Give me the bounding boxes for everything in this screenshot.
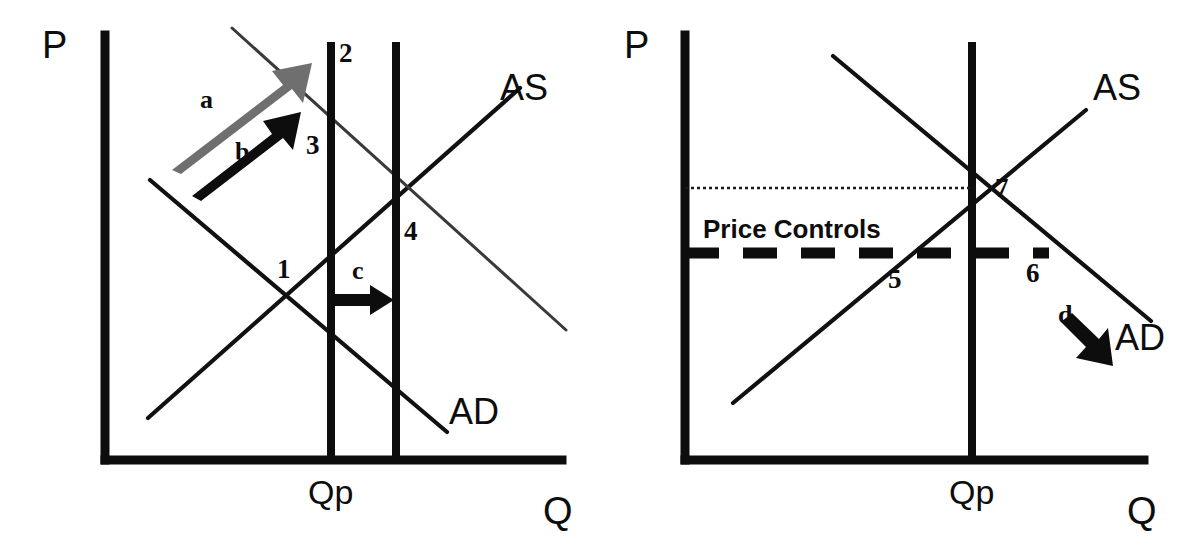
arrow-c-label: c: [352, 256, 364, 285]
right-point-label-6: 6: [1026, 258, 1040, 288]
arrow-c: [334, 285, 394, 315]
figure-canvas: a b c 1 2 3 4 AS AD P Q Qp: [0, 0, 1198, 547]
right-ad-label: AD: [1115, 317, 1165, 358]
arrow-b-label: b: [235, 137, 249, 166]
left-qp-tick-label: Qp: [308, 473, 353, 511]
left-p-axis-label: P: [42, 24, 67, 66]
right-qp-tick-label: Qp: [949, 473, 994, 511]
right-q-axis-label: Q: [1127, 490, 1157, 532]
left-as-label: AS: [500, 67, 548, 108]
arrow-d-label: d: [1058, 300, 1073, 329]
right-p-axis-label: P: [624, 24, 649, 66]
price-controls-label: Price Controls: [703, 214, 881, 244]
left-point-label-1: 1: [277, 254, 291, 284]
left-panel-ad-shift: a b c 1 2 3 4 AS AD P Q Qp: [0, 0, 599, 547]
left-point-label-3: 3: [306, 130, 320, 160]
right-panel-price-controls: Price Controls d 5 6 7 AS AD P Q Qp: [599, 0, 1198, 547]
left-ad-label: AD: [449, 391, 499, 432]
left-q-axis-label: Q: [543, 490, 573, 532]
left-point-label-4: 4: [404, 216, 418, 246]
right-point-label-7: 7: [995, 173, 1009, 203]
right-as-label: AS: [1093, 67, 1141, 108]
arrow-a-label: a: [200, 85, 213, 114]
right-point-label-5: 5: [888, 264, 902, 294]
left-ad1-curve: [150, 180, 447, 432]
left-point-label-2: 2: [339, 38, 353, 68]
